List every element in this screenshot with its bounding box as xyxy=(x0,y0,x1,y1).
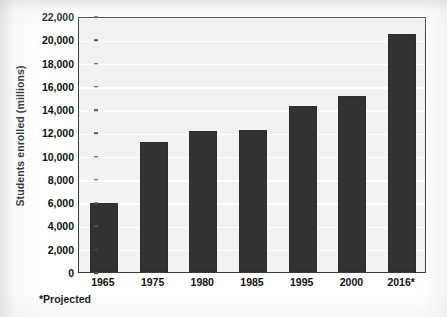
x-axis-tick-label: 1985 xyxy=(240,276,263,288)
y-axis-tick-mark xyxy=(94,226,98,228)
y-axis-tick-mark xyxy=(94,133,98,135)
y-axis-tick-label: 10,000 xyxy=(28,151,74,163)
bar[interactable]: 20,442 xyxy=(388,34,416,272)
x-axis-tick-labels: 1965197519801985199520002016* xyxy=(78,276,426,294)
bar-group[interactable]: 12,247 xyxy=(239,18,267,272)
bar[interactable]: 12,097 xyxy=(189,131,217,272)
y-axis-tick-mark xyxy=(94,202,98,204)
bar[interactable]: 14,261 xyxy=(289,106,317,272)
y-axis-tick-label: 16,000 xyxy=(28,81,74,93)
y-axis-tick-label: 0 xyxy=(28,267,74,279)
x-axis-tick-label: 2000 xyxy=(340,276,363,288)
bar-group[interactable]: 20,442 xyxy=(388,18,416,272)
bar-group[interactable]: 11,185 xyxy=(140,18,168,272)
bar[interactable]: 11,185 xyxy=(140,142,168,272)
y-axis-tick-mark xyxy=(94,16,98,18)
y-axis-tick-mark xyxy=(94,156,98,158)
bar-group[interactable]: 14,261 xyxy=(289,18,317,272)
y-axis-tick-mark xyxy=(94,109,98,111)
bar-group[interactable]: 5,921 xyxy=(90,18,118,272)
y-axis-tick-label: 8,000 xyxy=(28,174,74,186)
y-axis-tick-label: 18,000 xyxy=(28,58,74,70)
y-axis-tick-labels: 02,0004,0006,0008,00010,00012,00014,0001… xyxy=(22,0,74,317)
x-axis-tick-label: 2016* xyxy=(387,276,414,288)
x-axis-tick-label: 1995 xyxy=(290,276,313,288)
x-axis-tick-label: 1965 xyxy=(91,276,114,288)
bar-chart-figure: Students enrolled (millions) 02,0004,000… xyxy=(0,0,447,317)
x-axis-tick-label: 1975 xyxy=(141,276,164,288)
y-axis-tick-mark xyxy=(94,272,98,274)
y-axis-tick-label: 4,000 xyxy=(28,220,74,232)
plot-inner: 5,92111,18512,09712,24714,26115,13520,44… xyxy=(79,18,425,272)
y-axis-tick-label: 14,000 xyxy=(28,104,74,116)
y-axis-tick-mark xyxy=(94,179,98,181)
y-axis-tick-mark xyxy=(94,249,98,251)
y-axis-tick-label: 20,000 xyxy=(28,34,74,46)
y-axis-tick-mark xyxy=(94,40,98,42)
y-axis-tick-label: 12,000 xyxy=(28,127,74,139)
bar[interactable]: 12,247 xyxy=(239,130,267,273)
x-axis-tick-label: 1980 xyxy=(191,276,214,288)
y-axis-tick-label: 2,000 xyxy=(28,244,74,256)
y-axis-tick-mark xyxy=(94,86,98,88)
y-axis-tick-label: 22,000 xyxy=(28,11,74,23)
bar[interactable]: 15,135 xyxy=(338,96,366,272)
plot-area: 5,92111,18512,09712,24714,26115,13520,44… xyxy=(78,17,426,273)
bar-group[interactable]: 12,097 xyxy=(189,18,217,272)
chart-footnote: *Projected xyxy=(39,293,91,305)
y-axis-tick-mark xyxy=(94,63,98,65)
bar[interactable]: 5,921 xyxy=(90,203,118,272)
y-axis-tick-label: 6,000 xyxy=(28,197,74,209)
bar-group[interactable]: 15,135 xyxy=(338,18,366,272)
